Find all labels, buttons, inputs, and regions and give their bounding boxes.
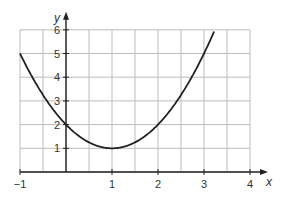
x-axis-label: x bbox=[265, 175, 273, 189]
x-tick-label: 1 bbox=[109, 178, 115, 190]
parabola-curve bbox=[20, 32, 214, 149]
x-tick-label: −1 bbox=[14, 178, 27, 190]
x-tick-label: 4 bbox=[247, 178, 253, 190]
y-tick-label: 2 bbox=[54, 119, 60, 131]
parabola-plot: −11234123456xy bbox=[0, 0, 283, 198]
chart: −11234123456xy bbox=[0, 0, 283, 198]
x-tick-label: 3 bbox=[201, 178, 207, 190]
y-tick-label: 6 bbox=[54, 24, 60, 36]
y-tick-label: 5 bbox=[54, 48, 60, 60]
x-tick-label: 2 bbox=[155, 178, 161, 190]
y-tick-label: 4 bbox=[54, 71, 60, 83]
y-tick-label: 3 bbox=[54, 95, 60, 107]
y-axis-label: y bbox=[53, 11, 61, 25]
y-axis-arrow-icon bbox=[63, 12, 69, 20]
y-tick-label: 1 bbox=[54, 142, 60, 154]
